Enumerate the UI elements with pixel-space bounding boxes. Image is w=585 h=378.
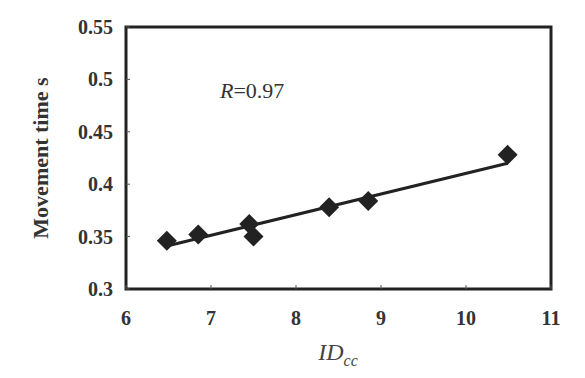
y-tick-label: 0.55 [78,16,113,38]
x-tick-label: 6 [121,307,131,329]
r-symbol: R [219,78,234,103]
y-axis-title: Movement time s [28,77,53,239]
y-tick-label: 0.45 [78,121,113,143]
y-axis-ticks: 0.30.350.40.450.50.55 [78,16,130,300]
y-tick-label: 0.4 [88,173,113,195]
x-tick-label: 10 [456,307,476,329]
x-tick-label: 9 [376,307,386,329]
data-point-diamond [157,231,177,251]
r-annotation: R=0.97 [219,78,284,103]
data-point-diamond [498,145,518,165]
data-point-diamond [319,197,339,217]
r-value: =0.97 [233,78,284,103]
regression-line [167,163,508,246]
x-axis-title-subscript: cc [344,352,358,369]
y-tick-label: 0.5 [88,68,113,90]
scatter-chart: 0.30.350.40.450.50.55 67891011 Movement … [0,0,585,378]
x-tick-label: 7 [206,307,216,329]
plot-area [126,27,551,289]
x-axis-title-main: ID [317,339,343,365]
y-tick-label: 0.35 [78,226,113,248]
x-axis-title: IDcc [317,339,358,369]
x-tick-label: 11 [542,307,561,329]
x-axis-ticks: 67891011 [121,285,560,329]
plot-frame [126,27,551,289]
y-tick-label: 0.3 [88,278,113,300]
x-tick-label: 8 [291,307,301,329]
